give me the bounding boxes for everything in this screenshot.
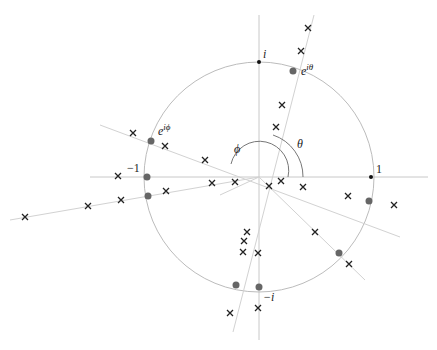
label-e-itheta: eiθ: [301, 62, 314, 78]
label-i: i: [263, 47, 266, 61]
point-right-lower: [366, 198, 373, 205]
point-e-itheta: [290, 68, 297, 75]
label-theta: θ: [297, 137, 303, 151]
point-i: [257, 60, 261, 64]
label-phi: ϕ: [234, 142, 240, 156]
point-minus-one: [144, 174, 151, 181]
label-one: 1: [376, 162, 382, 176]
point-lower-left: [145, 193, 152, 200]
ray-left-lower: [10, 177, 259, 220]
label-minus-i: −i: [263, 290, 274, 304]
crosses: [22, 25, 397, 316]
label-e-iphi: eiϕ: [158, 122, 171, 138]
circle-points: [144, 68, 373, 291]
point-minus-i: [256, 284, 263, 291]
label-minus-one: −1: [127, 161, 140, 175]
point-bottom-left: [233, 282, 240, 289]
point-lower-right: [336, 250, 343, 257]
point-one: [369, 175, 373, 179]
complex-plane-diagram: i eiθ eiϕ −1 1 −i θ ϕ: [0, 0, 437, 350]
ray-center-left: [220, 177, 259, 195]
point-e-iphi: [148, 138, 155, 145]
